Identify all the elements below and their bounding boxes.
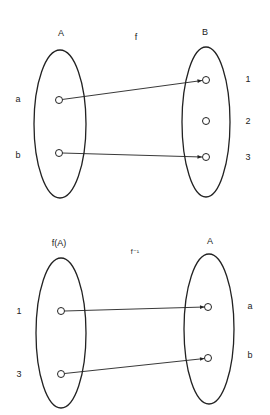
element-2-point (203, 118, 210, 125)
diagram-f: A f B a b 1 2 3 (15, 27, 250, 198)
element-b-point-bottom (205, 355, 212, 362)
element-label-b-bottom: b (247, 350, 252, 360)
set-label-A-bottom: A (207, 236, 213, 246)
mapping-label-f-inverse: f⁻¹ (131, 248, 140, 255)
element-3-point (203, 154, 210, 161)
set-label-A: A (58, 28, 64, 38)
mapping-label-f: f (135, 32, 138, 42)
set-A-ellipse (34, 50, 86, 198)
element-label-1: 1 (245, 74, 250, 84)
element-label-b: b (15, 150, 20, 160)
element-label-1-bottom: 1 (16, 306, 21, 316)
diagram-f-inverse: f(A) f⁻¹ A 1 3 a b (16, 236, 252, 408)
element-b-point (56, 150, 63, 157)
arrow-3-to-b (65, 359, 205, 374)
element-1-point-bottom (58, 308, 65, 315)
element-1-point (203, 77, 210, 84)
set-label-fA: f(A) (52, 238, 67, 248)
set-A-bottom-ellipse (184, 254, 234, 404)
element-3-point-bottom (58, 371, 65, 378)
set-label-B: B (202, 27, 208, 37)
element-a-point (56, 97, 63, 104)
set-fA-ellipse (36, 258, 86, 408)
element-label-2: 2 (245, 116, 250, 126)
element-label-a: a (15, 94, 20, 104)
element-a-point-bottom (205, 304, 212, 311)
arrow-1-to-a (65, 307, 205, 311)
element-label-3-bottom: 3 (16, 369, 21, 379)
element-label-3: 3 (245, 152, 250, 162)
element-label-a-bottom: a (247, 301, 252, 311)
function-inverse-diagram: A f B a b 1 2 3 f(A) f⁻¹ A 1 3 a b (0, 0, 270, 415)
